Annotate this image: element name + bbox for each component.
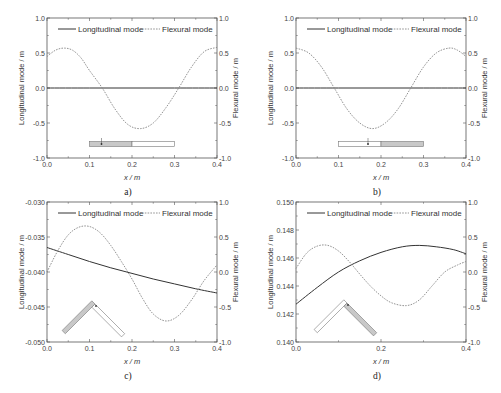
x-axis-label: x / m: [372, 357, 389, 366]
x-tick-label: 0.1: [85, 161, 95, 168]
x-tick-label: 0.3: [419, 161, 429, 168]
x-tick-label: 0.0: [42, 161, 52, 168]
inset-diagram: [90, 138, 175, 147]
panel-c: 0.00.10.20.30.4-0.050-0.045-0.040-0.035-…: [17, 199, 240, 383]
x-axis-label: x / m: [123, 357, 140, 366]
y-left-tick-label: -0.030: [25, 199, 45, 206]
y-left-tick-label: 1.0: [284, 15, 294, 22]
x-tick-label: 0.4: [461, 161, 471, 168]
y-left-tick-label: 0.0: [284, 85, 294, 92]
y-right-axis-label: Flexural mode / m: [480, 242, 489, 302]
y-right-tick-label: 0.0: [219, 85, 229, 92]
x-tick-label: 0.3: [170, 345, 180, 352]
y-right-tick-label: 0.5: [219, 50, 229, 57]
x-tick-label: 0.3: [170, 161, 180, 168]
beam-arm-shaded: [344, 303, 377, 336]
y-right-tick-label: 0.0: [468, 269, 478, 276]
legend: Longitudinal modeFlexural mode: [307, 209, 462, 218]
panel-caption: c): [124, 371, 131, 382]
x-tick-label: 0.4: [212, 345, 222, 352]
legend-label-longitudinal: Longitudinal mode: [327, 209, 393, 218]
y-right-tick-label: 0.0: [219, 269, 229, 276]
x-axis-label: x / m: [372, 173, 389, 182]
y-left-tick-label: 0.140: [276, 339, 294, 346]
y-left-tick-label: 0.142: [276, 311, 294, 318]
beam-segment: [339, 142, 382, 147]
y-left-tick-label: -0.035: [25, 234, 45, 241]
y-right-axis-label: Flexural mode / m: [231, 58, 240, 118]
beam-arm: [92, 304, 125, 337]
y-left-tick-label: -0.5: [33, 120, 45, 127]
y-axis-left: -0.050-0.045-0.040-0.035-0.030: [25, 199, 50, 346]
panel-a: 0.00.10.20.30.4-1.0-0.50.00.51.0-1.0-0.5…: [17, 15, 240, 199]
y-left-axis-label: Longitudinal mode / m: [266, 51, 275, 125]
legend-label-longitudinal: Longitudinal mode: [78, 209, 144, 218]
beam-arm: [314, 300, 347, 333]
y-right-tick-label: 1.0: [468, 15, 478, 22]
legend-label-flexural: Flexural mode: [411, 209, 462, 218]
inset-diagram: [314, 300, 377, 336]
y-left-tick-label: 0.144: [276, 283, 294, 290]
y-right-tick-label: -0.5: [468, 120, 480, 127]
x-axis-label: x / m: [123, 173, 140, 182]
y-right-tick-label: -1.0: [219, 339, 231, 346]
y-right-tick-label: -0.5: [219, 304, 231, 311]
force-point-icon: [347, 304, 349, 306]
panel-b: 0.00.10.20.30.4-1.0-0.50.00.51.0-1.0-0.5…: [266, 15, 489, 199]
y-right-tick-label: 0.5: [219, 234, 229, 241]
y-axis-right: -1.0-0.50.00.51.0: [463, 199, 480, 346]
y-left-axis-label: Longitudinal mode / m: [17, 51, 26, 125]
y-right-tick-label: 0.0: [468, 85, 478, 92]
y-right-tick-label: 1.0: [468, 199, 478, 206]
panel-d: 0.00.20.40.1400.1420.1440.1460.1480.150-…: [266, 199, 489, 383]
x-tick-label: 0.1: [334, 161, 344, 168]
y-right-tick-label: 1.0: [219, 15, 229, 22]
series-line-flexural: [296, 245, 466, 306]
x-tick-label: 0.0: [291, 345, 301, 352]
figure: 0.00.10.20.30.4-1.0-0.50.00.51.0-1.0-0.5…: [0, 0, 501, 393]
force-point-icon: [101, 143, 103, 145]
panel-caption: b): [373, 187, 381, 198]
legend-label-flexural: Flexural mode: [162, 25, 213, 34]
y-right-tick-label: 0.5: [468, 234, 478, 241]
x-tick-label: 0.4: [461, 345, 471, 352]
legend: Longitudinal modeFlexural mode: [58, 25, 213, 34]
y-right-tick-label: 1.0: [219, 199, 229, 206]
series-line-longitudinal: [47, 248, 217, 294]
x-tick-label: 0.0: [42, 345, 52, 352]
legend-label-longitudinal: Longitudinal mode: [327, 25, 393, 34]
y-left-tick-label: 1.0: [35, 15, 45, 22]
y-left-tick-label: -0.5: [282, 120, 294, 127]
y-right-axis-label: Flexural mode / m: [480, 58, 489, 118]
y-left-tick-label: -1.0: [33, 155, 45, 162]
panel-caption: d): [373, 371, 381, 382]
legend-label-flexural: Flexural mode: [411, 25, 462, 34]
beam-arm-shaded: [62, 301, 95, 334]
y-left-tick-label: -0.050: [25, 339, 45, 346]
y-left-axis-label: Longitudinal mode / m: [17, 235, 26, 309]
y-left-tick-label: 0.146: [276, 255, 294, 262]
beam-segment-shaded: [381, 142, 424, 147]
y-left-tick-label: 0.148: [276, 227, 294, 234]
y-right-axis-label: Flexural mode / m: [231, 242, 240, 302]
legend-label-flexural: Flexural mode: [162, 209, 213, 218]
y-right-tick-label: -1.0: [468, 155, 480, 162]
x-tick-label: 0.4: [212, 161, 222, 168]
y-left-tick-label: -0.040: [25, 269, 45, 276]
legend: Longitudinal modeFlexural mode: [58, 209, 213, 218]
y-right-tick-label: -1.0: [219, 155, 231, 162]
y-right-tick-label: -0.5: [219, 120, 231, 127]
x-tick-label: 0.0: [291, 161, 301, 168]
plot-frame: [296, 202, 466, 342]
force-point-icon: [367, 143, 369, 145]
y-left-tick-label: 0.0: [35, 85, 45, 92]
x-tick-label: 0.2: [127, 345, 137, 352]
y-left-tick-label: -0.045: [25, 304, 45, 311]
x-tick-label: 0.1: [85, 345, 95, 352]
legend-label-longitudinal: Longitudinal mode: [78, 25, 144, 34]
y-right-tick-label: 0.5: [468, 50, 478, 57]
x-tick-label: 0.2: [376, 161, 386, 168]
inset-diagram: [62, 301, 125, 337]
y-left-tick-label: -1.0: [282, 155, 294, 162]
y-left-tick-label: 0.5: [35, 50, 45, 57]
